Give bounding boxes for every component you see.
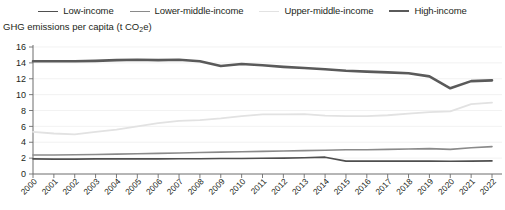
plot-area: 0246810121416 20002001200220032004200520… [0,34,505,210]
legend-item-high-income: High-income [389,6,466,16]
legend-swatch-lower-middle-income [130,11,150,12]
x-axis-tick-label: 2003 [81,176,101,196]
line-chart-svg: 0246810121416 20002001200220032004200520… [0,34,505,210]
legend-label-high-income: High-income [414,6,466,16]
series-line-upper-middle-income [33,103,492,135]
x-axis-tick-label: 2019 [415,176,435,196]
y-axis-tick-label: 6 [21,122,26,132]
y-axis-title: GHG emissions per capita (t CO2e) [3,21,152,33]
x-axis-tick-label: 2010 [227,176,247,196]
x-axis-tick-label: 2021 [457,176,477,196]
legend-label-upper-middle-income: Upper-middle-income [284,6,373,16]
x-axis-labels: 2000200120022003200420052006200720082009… [19,176,498,196]
x-axis-tick-label: 2018 [394,176,414,196]
chart-legend: Low-income Lower-middle-income Upper-mid… [0,3,505,19]
legend-item-upper-middle-income: Upper-middle-income [259,6,373,16]
y-axis-tick-label: 4 [21,137,26,147]
x-axis-tick-label: 2017 [373,176,393,196]
x-axis-tick-label: 2022 [478,176,498,196]
x-axis-tick-label: 2006 [144,176,164,196]
x-axis-tick-label: 2015 [332,176,352,196]
legend-swatch-low-income [38,11,58,12]
series-line-high-income [33,60,492,89]
y-axis-tick-label: 2 [21,153,26,163]
series-line-low-income [33,157,492,161]
x-axis-tick-label: 2005 [123,176,143,196]
y-axis-title-suffix: e) [143,21,151,32]
y-axis-labels: 0246810121416 [16,42,26,179]
y-axis-tick-label: 14 [16,58,26,68]
legend-label-low-income: Low-income [63,6,113,16]
x-axis-tick-label: 2007 [165,176,185,196]
y-axis-tick-label: 8 [21,106,26,116]
chart-container: Low-income Lower-middle-income Upper-mid… [0,0,505,210]
x-axis-tick-label: 2014 [311,176,331,196]
y-axis-tick-label: 12 [16,74,26,84]
y-axis-title-subscript: 2 [139,26,143,33]
x-axis-tick-label: 2004 [102,176,122,196]
y-axis-tick-label: 10 [16,90,26,100]
y-axis-title-prefix: GHG emissions per capita (t CO [3,21,139,32]
y-axis-tick-label: 16 [16,42,26,52]
legend-item-low-income: Low-income [38,6,113,16]
x-axis-ticks [33,174,492,178]
x-axis-tick-label: 2012 [269,176,289,196]
x-axis-tick-label: 2013 [290,176,310,196]
x-axis-tick-label: 2008 [186,176,206,196]
x-axis-tick-label: 2020 [436,176,456,196]
x-axis-tick-label: 2016 [352,176,372,196]
x-axis-tick-label: 2011 [249,176,269,196]
legend-swatch-upper-middle-income [259,11,279,12]
series-line-lower-middle-income [33,147,492,155]
y-axis-tick-label: 0 [21,169,26,179]
gridlines-group [33,47,502,158]
legend-swatch-high-income [389,10,409,12]
legend-item-lower-middle-income: Lower-middle-income [130,6,244,16]
legend-label-lower-middle-income: Lower-middle-income [155,6,244,16]
x-axis-tick-label: 2002 [60,176,80,196]
x-axis-tick-label: 2009 [206,176,226,196]
x-axis-tick-label: 2001 [40,176,60,196]
